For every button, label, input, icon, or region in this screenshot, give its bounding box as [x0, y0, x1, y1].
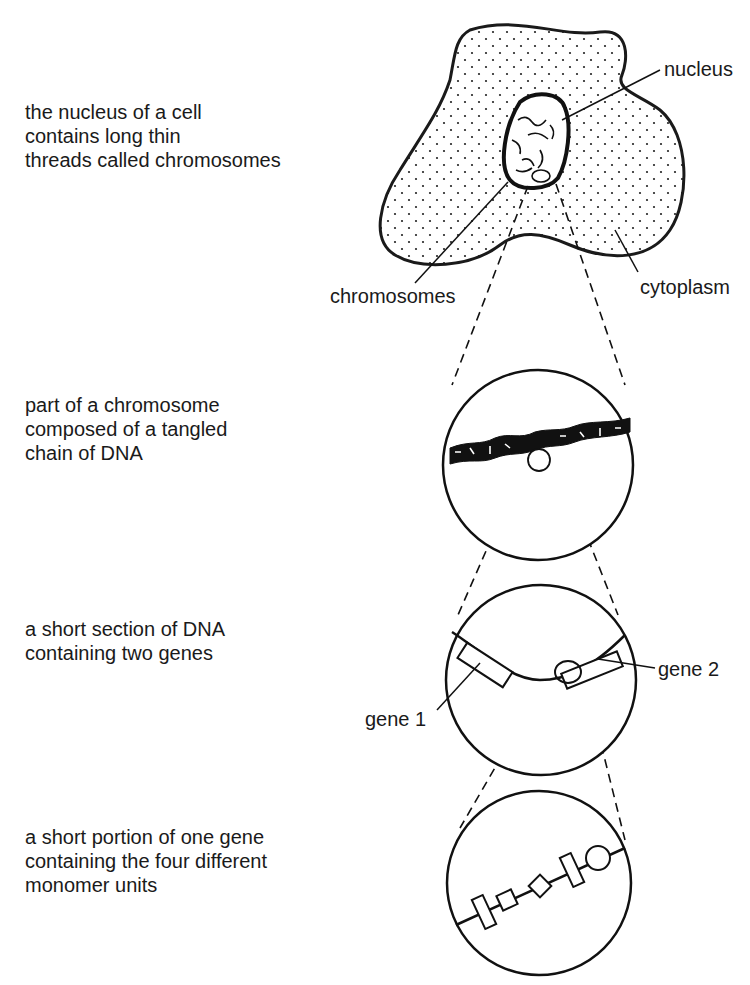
dna-description: a short section of DNA containing two ge…: [25, 617, 225, 665]
label-gene-2: gene 2: [658, 658, 719, 680]
cell-description: the nucleus of a cell contains long thin…: [25, 100, 281, 172]
gene-circle: [447, 791, 631, 975]
dna-circle: [446, 585, 636, 775]
gene-description: a short portion of one gene containing t…: [25, 825, 267, 897]
chromosome-description: part of a chromosome composed of a tangl…: [25, 393, 227, 465]
label-nucleus: nucleus: [664, 58, 733, 80]
label-cytoplasm: cytoplasm: [640, 276, 730, 298]
chromosome-circle: [443, 370, 633, 560]
label-gene-1: gene 1: [365, 708, 426, 730]
label-chromosomes: chromosomes: [330, 285, 456, 307]
